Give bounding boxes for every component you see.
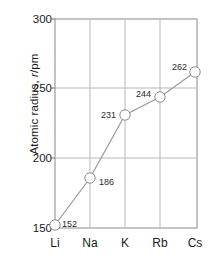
x-tick-label-rb: Rb bbox=[140, 236, 180, 250]
data-point-label-li: 152 bbox=[62, 219, 77, 229]
data-point-marker-rb bbox=[155, 92, 165, 102]
data-point-label-cs: 262 bbox=[172, 62, 187, 72]
data-point-marker-cs bbox=[190, 67, 200, 77]
data-point-marker-na bbox=[85, 173, 95, 183]
x-tick-label-cs: Cs bbox=[175, 236, 215, 250]
atomic-radius-line-chart: Atomic radius, r/pm 300 250 200 150 1521… bbox=[0, 0, 215, 259]
plot-area bbox=[0, 0, 215, 259]
data-point-label-na: 186 bbox=[99, 177, 114, 187]
data-point-marker-k bbox=[120, 110, 130, 120]
x-tick-label-k: K bbox=[105, 236, 145, 250]
x-tick-label-li: Li bbox=[35, 236, 75, 250]
data-point-marker-li bbox=[50, 220, 60, 230]
data-point-label-k: 231 bbox=[101, 110, 116, 120]
data-point-label-rb: 244 bbox=[136, 89, 151, 99]
x-tick-label-na: Na bbox=[70, 236, 110, 250]
